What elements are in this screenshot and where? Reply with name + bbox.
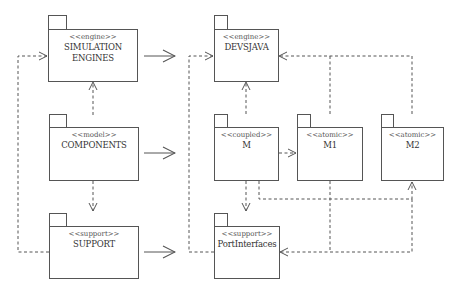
package-name: M2 — [382, 140, 443, 151]
package-name: PortInterfaces — [215, 239, 279, 250]
dep-support-to-engines — [18, 56, 49, 252]
package-tab — [214, 15, 228, 30]
package-body: <<model>> COMPONENTS — [49, 127, 139, 181]
package-body: <<atomic>> M1 — [297, 127, 363, 181]
package-body: <<atomic>> M2 — [381, 127, 444, 181]
package-tab — [48, 15, 67, 30]
package-body: <<support>> SUPPORT — [49, 226, 139, 279]
dep-portinterfaces-to-devsjava — [189, 56, 214, 252]
package-name: COMPONENTS — [50, 140, 138, 151]
package-tab — [49, 114, 67, 128]
package-tab — [297, 114, 311, 128]
dep-m-to-m2 — [259, 181, 412, 199]
package-stereotype: <<atomic>> — [382, 131, 443, 140]
dep-m1-m2-to-devsjava — [279, 56, 412, 114]
package-stereotype: <<engine>> — [215, 33, 278, 42]
package-name: M — [215, 140, 278, 151]
package-body: <<engine>> DEVSJAVA — [214, 29, 279, 82]
package-name: SUPPORT — [50, 239, 138, 250]
package-name: SIMULATION ENGINES — [49, 42, 137, 64]
package-name: M1 — [298, 140, 362, 151]
dep-m2-to-portinterfaces — [280, 199, 412, 252]
package-stereotype: <<engine>> — [49, 33, 137, 42]
package-diagram: <<engine>> SIMULATION ENGINES <<model>> … — [0, 0, 460, 291]
package-body: <<engine>> SIMULATION ENGINES — [48, 29, 138, 82]
package-body: <<support>> PortInterfaces — [214, 226, 280, 279]
package-tab — [214, 213, 228, 227]
package-stereotype: <<model>> — [50, 131, 138, 140]
package-name: DEVSJAVA — [215, 42, 278, 53]
package-tab — [214, 114, 228, 128]
package-stereotype: <<coupled>> — [215, 131, 278, 140]
package-tab — [381, 114, 394, 128]
package-stereotype: <<support>> — [50, 230, 138, 239]
package-tab — [49, 213, 67, 227]
package-stereotype: <<atomic>> — [298, 131, 362, 140]
package-stereotype: <<support>> — [215, 230, 279, 239]
package-body: <<coupled>> M — [214, 127, 279, 181]
